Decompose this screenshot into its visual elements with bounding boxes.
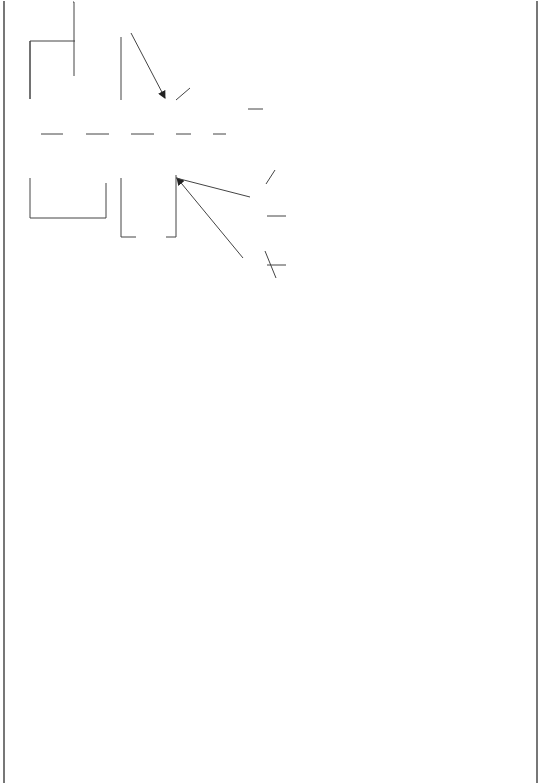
concept-map <box>0 0 538 783</box>
connector-lines <box>0 0 538 783</box>
